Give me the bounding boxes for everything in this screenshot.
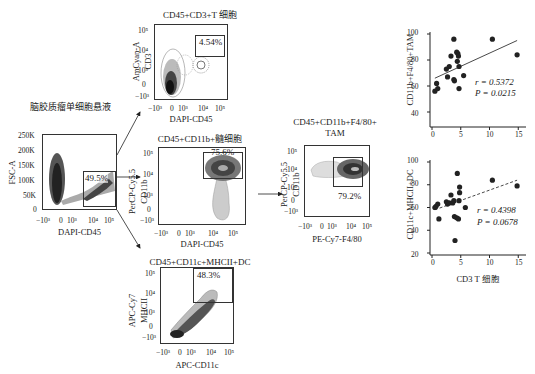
data-point [448,54,453,59]
gate-box[interactable] [333,157,363,187]
xtick: 0 [177,229,181,238]
data-point [435,86,440,91]
data-point [445,74,450,79]
data-point [457,184,462,189]
myeloid-xlabel: DAPI-CD45 [158,239,246,249]
data-point [456,198,461,203]
xtick: 10 [486,130,494,139]
myeloid-ylabel-channel: PerCP-Cy5.5 [128,162,137,222]
xtick: 10⁵ [224,348,234,357]
xtick: 10⁵ [362,222,372,231]
gate-percentage: 4.54% [199,37,222,47]
gate-percentage: 48.3% [197,270,220,280]
ytick: −10³ [284,207,298,216]
xtick: 10³ [185,229,195,238]
dc-title: CD45+CD11c+MHCII+DC [130,257,270,267]
ytick: 100 [407,156,418,165]
ytick: 0 [149,322,153,331]
xtick: 0 [170,104,174,113]
tam-plot-area: 79.2% [304,145,370,217]
ytick: −10³ [142,333,156,342]
xtick: 10⁴ [208,229,218,238]
ytick: 20 [411,250,419,259]
xtick: 15 [515,130,523,139]
xtick: 5 [459,258,463,267]
scatter-tam-vs-cd3: CD11b+F4/80+TAM 100 80 60 40 0 5 10 15 r… [395,20,535,145]
ytick: 10⁴ [143,170,153,179]
xtick: 0 [431,258,435,267]
ytick: 10⁵ [145,269,155,278]
ytick: −10³ [135,92,149,101]
data-point [456,54,461,59]
xtick: 0 [320,222,324,231]
ytick: 10⁵ [138,26,148,35]
p-value: P = 0.0215 [475,88,516,98]
xtick: −10³ [156,348,170,357]
data-point [456,64,461,69]
tam-title-line1: CD45+CD11b+F4/80+ [275,117,395,127]
ytick: 80 [411,179,419,188]
tam-plot: CD45+CD11b+F4/80+ TAM PerCP-Cy5.5 CD11b … [270,110,400,260]
ytick: 40 [411,109,419,118]
dc-plot: CD45+CD11c+MHCII+DC APC-Cy7 MHCII 10⁵ 10… [110,250,285,374]
ytick: 60 [411,203,419,212]
xtick: 10⁵ [215,104,225,113]
dc-xlabel: APC-CD11c [160,360,234,370]
myeloid-title: CD45+CD11b+髓细胞 [130,132,270,145]
data-point [448,192,453,197]
correlation-r: r = 0.4398 [477,205,516,215]
data-point [455,59,460,64]
data-point [515,52,520,57]
tcell-title: CD45+CD3+T 细胞 [130,8,270,21]
ytick: 10³ [287,183,297,192]
xtick: 10⁴ [206,348,216,357]
data-point [434,81,439,86]
ytick: 100 [407,28,418,37]
data-point [452,78,457,83]
xtick: −10³ [298,222,312,231]
data-point [447,64,452,69]
xtick: 10⁵ [228,229,238,238]
ytick: 0 [147,205,151,214]
data-point [451,37,456,42]
xtick: 0 [431,130,435,139]
xtick: 10⁴ [346,222,356,231]
ytick: 10³ [143,191,153,200]
scatter2-xlabel: CD3 T 细胞 [430,272,526,284]
dc-plot-area: 48.3% [160,267,234,344]
xtick: −10³ [148,104,162,113]
xtick: −10³ [154,229,168,238]
data-point [455,171,460,176]
tam-xlabel: PE-Cy7-F4/80 [300,234,374,244]
xtick: 10³ [327,222,337,231]
xtick: 10³ [178,104,188,113]
data-point [515,183,520,188]
xtick: 0 [178,348,182,357]
ytick: 10⁵ [143,149,153,158]
xtick: 10 [486,258,494,267]
data-point [490,37,495,42]
xtick: 10³ [186,348,196,357]
ytick: −10³ [140,216,154,225]
ytick: 0 [142,80,146,89]
data-point [461,73,466,78]
gate-percentage: 79.2% [338,191,361,201]
ytick: 10⁴ [138,46,148,55]
scatter-dc-vs-cd3: CD11c+MHCII+DC 100 80 60 40 20 0 5 10 15… [395,150,535,290]
data-point [436,216,441,221]
tcell-ylabel-channel: AmCyan-A [132,32,141,92]
data-point [463,205,468,210]
ytick: 80 [411,55,419,64]
ytick: 0 [291,196,295,205]
ytick: 10⁴ [287,165,297,174]
tam-title-line2: TAM [275,128,395,138]
xtick: 15 [515,258,523,267]
scatter1-ylabel: CD11b+F4/80+TAM [406,25,415,115]
tcell-xlabel: DAPI-CD45 [154,114,228,124]
ytick: 10³ [145,308,155,317]
data-point [456,86,461,91]
data-point [490,178,495,183]
xtick: 10⁴ [198,104,208,113]
ytick: 10³ [138,66,148,75]
xtick: 5 [459,130,463,139]
